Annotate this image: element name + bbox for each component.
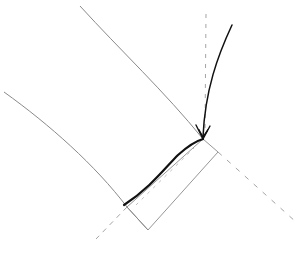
curved-arrow (203, 25, 232, 137)
diagram-svg (0, 0, 299, 261)
lower-gray-curve (4, 92, 148, 230)
dashed-diagonal-right (218, 152, 296, 222)
upper-gray-curve (80, 6, 203, 139)
tilted-rectangle (127, 139, 218, 230)
diagram-canvas: Geometric line sketch: two gray curves, … (0, 0, 299, 261)
dashed-inner-line (136, 148, 194, 205)
thick-black-curve (124, 139, 203, 205)
dashed-diagonal-left (96, 207, 127, 239)
